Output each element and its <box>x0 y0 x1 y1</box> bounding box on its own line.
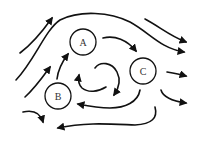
arrow-bottom-left-small-icon <box>23 111 43 122</box>
node-label: B <box>55 91 62 102</box>
arrow-big-top-arc-icon <box>16 13 184 80</box>
node-a: A <box>70 29 96 55</box>
node-c: C <box>130 58 156 84</box>
arrow-center-loop-left-icon <box>78 75 106 91</box>
arrow-right-lower-icon <box>161 90 186 103</box>
arrow-top-left-icon <box>20 18 52 53</box>
arrow-top-right-icon <box>145 19 186 42</box>
arrow-a-to-c-icon <box>103 37 136 51</box>
arrow-b-to-a-icon <box>57 54 68 79</box>
flow-diagram: ABC <box>0 0 203 145</box>
arrow-c-to-b-icon <box>78 90 140 108</box>
nodes-layer: ABC <box>45 29 156 109</box>
arrow-bottom-big-icon <box>58 107 156 128</box>
arrow-c-right-icon <box>167 72 186 76</box>
arrows-layer <box>16 13 186 128</box>
node-b: B <box>45 83 71 109</box>
node-label: A <box>79 37 87 48</box>
node-label: C <box>140 66 147 77</box>
